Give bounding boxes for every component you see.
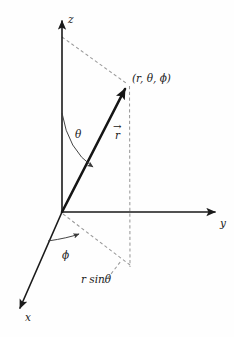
y-axis-label: y — [219, 217, 227, 229]
phi-angle-label: ϕ — [62, 249, 69, 261]
x-axis-label: x — [25, 311, 31, 323]
theta-angle-label: θ — [75, 128, 82, 140]
axes-group — [20, 21, 215, 308]
labels-group: z y x θ ϕ → r (r, θ, ϕ) r sinθ — [25, 13, 227, 323]
dashed-vertical-drop-line — [130, 86, 131, 267]
coordinate-diagram-svg: z y x θ ϕ → r (r, θ, ϕ) r sinθ — [0, 0, 234, 337]
z-axis-label: z — [67, 13, 74, 25]
position-vector-group — [62, 89, 125, 212]
spherical-coordinates-figure: z y x θ ϕ → r (r, θ, ϕ) r sinθ — [0, 0, 234, 337]
dashed-origin-to-projection-line — [63, 214, 130, 265]
angle-arcs-group — [48, 113, 93, 241]
dashed-z-to-point-line — [62, 37, 126, 83]
x-axis-line — [20, 212, 62, 308]
dashed-guide-group — [62, 37, 130, 283]
projection-length-label: r sinθ — [81, 273, 112, 285]
point-coordinates-label: (r, θ, ϕ) — [132, 72, 171, 84]
r-vector-line — [62, 89, 125, 212]
